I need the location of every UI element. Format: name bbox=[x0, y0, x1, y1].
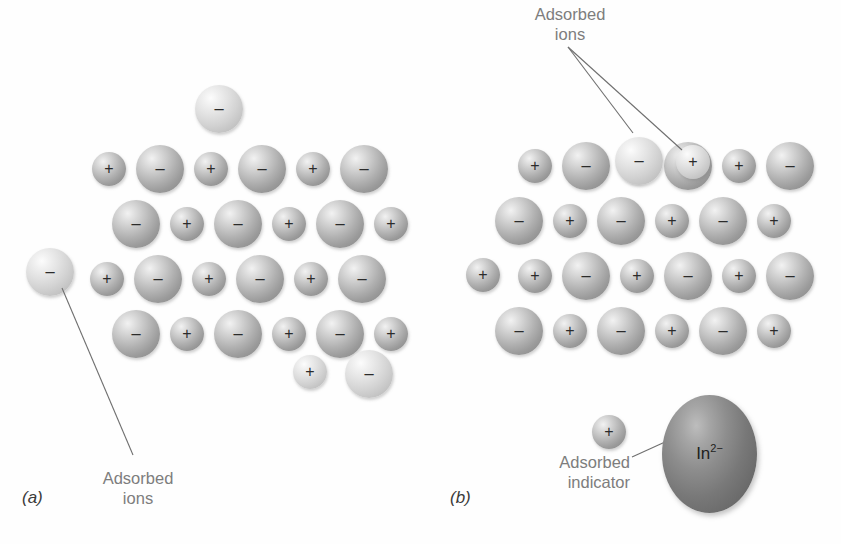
anion-sphere: − bbox=[597, 307, 645, 355]
panel-b-label: (b) bbox=[450, 488, 471, 508]
indicator-charge: 2− bbox=[710, 442, 723, 454]
ion-charge-sign: + bbox=[667, 323, 676, 339]
cation-sphere: + bbox=[296, 152, 330, 186]
indicator-formula-label: In2− bbox=[696, 444, 723, 464]
cation-sphere: + bbox=[518, 259, 552, 293]
anion-sphere: − bbox=[338, 255, 386, 303]
anion-sphere: − bbox=[562, 142, 610, 190]
anion-sphere: − bbox=[112, 310, 160, 358]
anion-sphere: − bbox=[134, 255, 182, 303]
cation-sphere: + bbox=[676, 145, 710, 179]
anion-sphere: − bbox=[766, 142, 814, 190]
ion-charge-sign: − bbox=[130, 325, 141, 344]
callout-line-1: Adsorbed bbox=[508, 4, 632, 24]
cation-sphere: + bbox=[757, 204, 791, 238]
ion-charge-sign: + bbox=[284, 216, 293, 232]
callout-line-2: indicator bbox=[498, 472, 630, 492]
cation-sphere: + bbox=[722, 259, 756, 293]
ion-charge-sign: + bbox=[769, 323, 778, 339]
ion-charge-sign: + bbox=[308, 161, 317, 177]
panel-a-label: (a) bbox=[22, 488, 43, 508]
anion-sphere: − bbox=[136, 145, 184, 193]
ion-charge-sign: − bbox=[717, 212, 728, 231]
ion-charge-sign: + bbox=[632, 268, 641, 284]
figure-adsorption-diagram: +−+−+−−+−+−++−+−+−−+−+−+−−+− Adsorbed io… bbox=[0, 0, 841, 544]
anion-sphere: − bbox=[699, 197, 747, 245]
anion-sphere: − bbox=[615, 137, 663, 185]
cation-sphere: + bbox=[757, 314, 791, 348]
ion-charge-sign: − bbox=[213, 100, 224, 119]
cation-sphere: + bbox=[170, 317, 204, 351]
cation-sphere: + bbox=[655, 204, 689, 238]
ion-charge-sign: − bbox=[513, 322, 524, 341]
ion-charge-sign: + bbox=[604, 424, 613, 440]
ion-charge-sign: + bbox=[102, 271, 111, 287]
ion-charge-sign: + bbox=[688, 154, 697, 170]
ion-charge-sign: + bbox=[565, 213, 574, 229]
anion-sphere: − bbox=[495, 307, 543, 355]
ion-charge-sign: − bbox=[615, 212, 626, 231]
callout-line-1: Adsorbed bbox=[498, 452, 630, 472]
ion-charge-sign: + bbox=[386, 216, 395, 232]
ion-charge-sign: − bbox=[580, 157, 591, 176]
ion-charge-sign: − bbox=[44, 263, 55, 282]
anion-sphere: − bbox=[495, 197, 543, 245]
ion-charge-sign: − bbox=[254, 270, 265, 289]
ion-charge-sign: + bbox=[386, 326, 395, 342]
ion-charge-sign: − bbox=[580, 267, 591, 286]
cation-sphere: + bbox=[170, 207, 204, 241]
ion-charge-sign: + bbox=[667, 213, 676, 229]
anion-sphere: − bbox=[316, 310, 364, 358]
panel-b: +−+−+−−+−+−++−+−+−−+−+−+−+++ Adsorbed io… bbox=[420, 0, 841, 544]
cation-sphere: + bbox=[655, 314, 689, 348]
cation-sphere: + bbox=[374, 207, 408, 241]
cation-sphere: + bbox=[374, 317, 408, 351]
cation-sphere: + bbox=[466, 258, 500, 292]
panel-b-adsorbed-ions-callout: Adsorbed ions bbox=[508, 4, 632, 44]
ion-charge-sign: + bbox=[530, 268, 539, 284]
callout-line-2: ions bbox=[508, 24, 632, 44]
panel-a: +−+−+−−+−+−++−+−+−−+−+−+−−+− Adsorbed io… bbox=[0, 0, 420, 544]
cation-sphere: + bbox=[722, 149, 756, 183]
ion-charge-sign: − bbox=[633, 152, 644, 171]
panel-a-adsorbed-ions-callout: Adsorbed ions bbox=[78, 468, 198, 508]
ion-charge-sign: + bbox=[206, 161, 215, 177]
ion-charge-sign: + bbox=[769, 213, 778, 229]
cation-sphere: + bbox=[194, 152, 228, 186]
anion-sphere: − bbox=[195, 85, 243, 133]
ion-charge-sign: + bbox=[204, 271, 213, 287]
ion-charge-sign: − bbox=[154, 160, 165, 179]
ion-charge-sign: − bbox=[232, 325, 243, 344]
ion-charge-sign: + bbox=[734, 268, 743, 284]
adsorbed-indicator-ellipse: In2− bbox=[662, 395, 757, 513]
ion-charge-sign: − bbox=[363, 365, 374, 384]
ion-charge-sign: + bbox=[182, 326, 191, 342]
ion-charge-sign: + bbox=[565, 323, 574, 339]
anion-sphere: − bbox=[214, 310, 262, 358]
anion-sphere: − bbox=[766, 252, 814, 300]
anion-sphere: − bbox=[236, 255, 284, 303]
ion-charge-sign: + bbox=[306, 271, 315, 287]
ion-charge-sign: − bbox=[784, 157, 795, 176]
anion-sphere: − bbox=[238, 145, 286, 193]
anion-sphere: − bbox=[316, 200, 364, 248]
panel-b-adsorbed-indicator-callout: Adsorbed indicator bbox=[498, 452, 630, 492]
cation-sphere: + bbox=[592, 415, 626, 449]
ion-charge-sign: + bbox=[305, 364, 314, 380]
cation-sphere: + bbox=[90, 262, 124, 296]
cation-sphere: + bbox=[294, 262, 328, 296]
ion-charge-sign: − bbox=[334, 325, 345, 344]
anion-sphere: − bbox=[699, 307, 747, 355]
ion-charge-sign: + bbox=[182, 216, 191, 232]
ion-charge-sign: − bbox=[615, 322, 626, 341]
cation-sphere: + bbox=[272, 207, 306, 241]
ion-charge-sign: + bbox=[530, 158, 539, 174]
cation-sphere: + bbox=[620, 259, 654, 293]
anion-sphere: − bbox=[345, 350, 393, 398]
ion-charge-sign: − bbox=[513, 212, 524, 231]
ion-charge-sign: − bbox=[256, 160, 267, 179]
ion-charge-sign: − bbox=[152, 270, 163, 289]
anion-sphere: − bbox=[214, 200, 262, 248]
anion-sphere: − bbox=[664, 252, 712, 300]
anion-sphere: − bbox=[597, 197, 645, 245]
